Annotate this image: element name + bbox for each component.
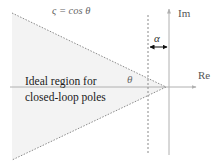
ideal-region-label: Ideal region for closed-loop poles	[25, 73, 106, 105]
real-axis-label: Re	[198, 69, 210, 81]
region-label-line-1: Ideal region for	[25, 73, 106, 89]
theta-label: θ	[127, 73, 132, 85]
alpha-label: α	[154, 32, 160, 44]
s-plane-diagram: ς = cos θ θ α Im Re Ideal region for clo…	[0, 0, 218, 167]
imag-axis-label: Im	[178, 7, 190, 19]
damping-equation-label: ς = cos θ	[52, 5, 90, 16]
region-label-line-2: closed-loop poles	[25, 89, 106, 105]
